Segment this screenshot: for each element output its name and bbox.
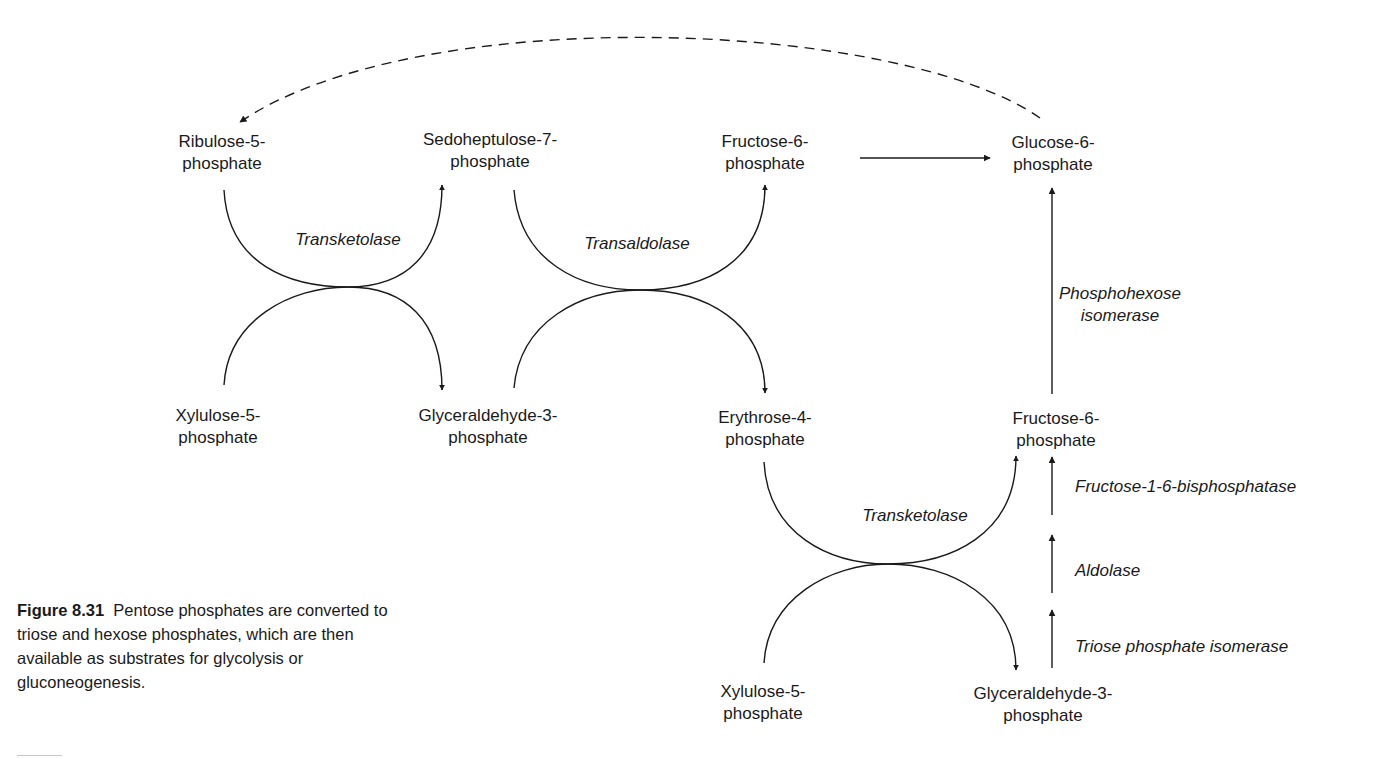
node-label-line1: Xylulose-5- [720,681,805,703]
node-label-line1: Glyceraldehyde-3- [974,683,1113,705]
node-xylulose-5-phosphate-mid: Xylulose-5- phosphate [175,405,260,449]
enzyme-triose-phosphate-isomerase: Triose phosphate isomerase [1075,636,1288,658]
node-glucose-6-phosphate: Glucose-6- phosphate [1011,132,1094,176]
node-label-line1: Glyceraldehyde-3- [419,405,558,427]
caption-label: Figure 8.31 [17,601,104,619]
enzyme-aldolase: Aldolase [1075,560,1140,582]
node-glyceraldehyde-3-phosphate-mid: Glyceraldehyde-3- phosphate [419,405,558,449]
node-label-line2: phosphate [179,153,266,175]
node-label-line2: phosphate [722,153,809,175]
node-label-line2: phosphate [1013,430,1100,452]
arc-xylulose-to-g3p-bottom [764,564,1016,670]
node-erythrose-4-phosphate: Erythrose-4- phosphate [718,407,812,451]
dashed-return-arrow [240,37,1040,122]
node-label-line2: phosphate [720,703,805,725]
enzyme-label-line2: isomerase [1059,305,1181,327]
enzyme-transaldolase: Transaldolase [584,233,690,255]
node-label-line1: Erythrose-4- [718,407,812,429]
node-label-line2: phosphate [1011,154,1094,176]
node-label-line1: Fructose-6- [1013,408,1100,430]
node-label-line2: phosphate [718,429,812,451]
figure-caption: Figure 8.31 Pentose phosphates are conve… [17,598,397,694]
node-ribulose-5-phosphate: Ribulose-5- phosphate [179,131,266,175]
node-glyceraldehyde-3-phosphate-bottom: Glyceraldehyde-3- phosphate [974,683,1113,727]
node-label-line2: phosphate [423,151,557,173]
node-label-line2: phosphate [974,705,1113,727]
node-label-line1: Fructose-6- [722,131,809,153]
enzyme-transketolase-2: Transketolase [862,505,968,527]
enzyme-phosphohexose-isomerase: Phosphohexose isomerase [1059,283,1181,327]
footer-rule [17,755,62,756]
node-label-line2: phosphate [175,427,260,449]
node-sedoheptulose-7-phosphate: Sedoheptulose-7- phosphate [423,129,557,173]
enzyme-transketolase-1: Transketolase [295,229,401,251]
node-label-line1: Xylulose-5- [175,405,260,427]
node-xylulose-5-phosphate-bottom: Xylulose-5- phosphate [720,681,805,725]
arc-g3p-to-erythrose [514,290,765,393]
node-label-line2: phosphate [419,427,558,449]
enzyme-fructose-bisphosphatase: Fructose-1-6-bisphosphatase [1075,476,1296,498]
node-label-line1: Glucose-6- [1011,132,1094,154]
enzyme-label-line1: Phosphohexose [1059,283,1181,305]
node-label-line1: Sedoheptulose-7- [423,129,557,151]
arc-xylulose-to-g3p [224,287,442,390]
node-fructose-6-phosphate-right: Fructose-6- phosphate [1013,408,1100,452]
node-label-line1: Ribulose-5- [179,131,266,153]
node-fructose-6-phosphate-top: Fructose-6- phosphate [722,131,809,175]
